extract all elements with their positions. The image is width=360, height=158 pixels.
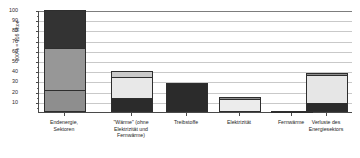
bar-5[interactable] bbox=[306, 73, 348, 112]
category-label-5: Verluste des Energiesektors bbox=[299, 119, 353, 132]
bar-0-segment-mitte bbox=[44, 48, 86, 90]
bar-5-segment-mitte bbox=[306, 75, 348, 103]
energy-bar-chart: 100% = 116 Mtoe 100908070605040302010 En… bbox=[0, 0, 360, 158]
y-tick-label-50: 50 bbox=[0, 59, 18, 64]
y-tick-label-20: 20 bbox=[0, 90, 18, 95]
y-tick-label-80: 80 bbox=[0, 28, 18, 33]
bar-2[interactable] bbox=[166, 83, 208, 112]
bar-3-segment-unten bbox=[219, 99, 261, 112]
y-tick-label-40: 40 bbox=[0, 69, 18, 74]
category-label-0: Endenergie, Sektoren bbox=[38, 119, 90, 132]
category-label-1: "Wärme" (ohne Elektrizität und Fernwärme… bbox=[102, 119, 160, 139]
y-tick-label-90: 90 bbox=[0, 18, 18, 23]
bar-1-segment-mitte bbox=[111, 77, 153, 97]
bar-0-segment-unten bbox=[44, 90, 86, 112]
x-tick-mark-2 bbox=[186, 113, 187, 116]
bar-1[interactable] bbox=[111, 71, 153, 112]
bar-0-segment-oben bbox=[44, 10, 86, 48]
y-tick-label-60: 60 bbox=[0, 49, 18, 54]
plot-area bbox=[38, 11, 352, 113]
y-tick-label-10: 10 bbox=[0, 100, 18, 105]
bar-2-segment-voll bbox=[166, 83, 208, 112]
x-tick-mark-0 bbox=[64, 113, 65, 116]
bar-0[interactable] bbox=[44, 10, 86, 112]
x-tick-mark-1 bbox=[131, 113, 132, 116]
y-tick-label-100: 100 bbox=[0, 8, 18, 13]
x-tick-mark-4 bbox=[291, 113, 292, 116]
y-tick-label-70: 70 bbox=[0, 39, 18, 44]
category-label-2: Treibstoffe bbox=[163, 119, 209, 126]
category-label-3: Elektrizität bbox=[216, 119, 262, 126]
bar-5-segment-unten bbox=[306, 103, 348, 112]
x-tick-mark-5 bbox=[326, 113, 327, 116]
bar-3[interactable] bbox=[219, 97, 261, 112]
bar-1-segment-unten bbox=[111, 98, 153, 112]
y-tick-label-30: 30 bbox=[0, 79, 18, 84]
x-tick-mark-3 bbox=[239, 113, 240, 116]
